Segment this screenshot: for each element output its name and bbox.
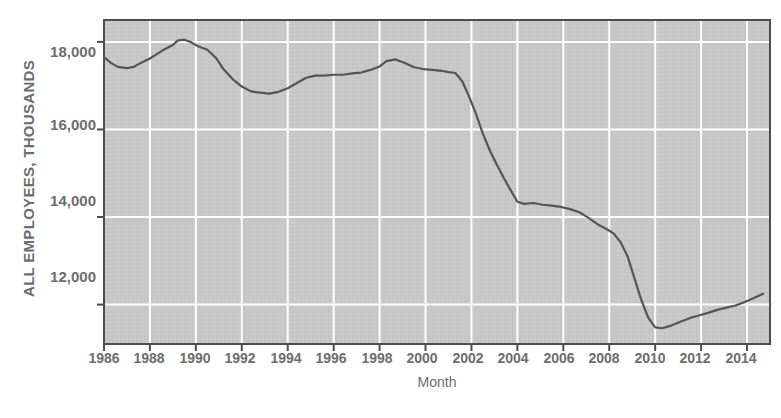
chart-figure: ALL EMPLOYEES, THOUSANDS 12,000 14,000 1…	[0, 0, 781, 418]
plot-area	[0, 0, 781, 418]
plot-background	[104, 20, 770, 344]
